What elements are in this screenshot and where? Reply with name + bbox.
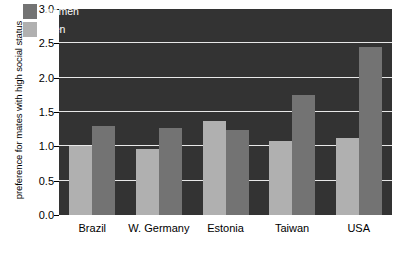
bar xyxy=(69,146,92,215)
y-tick-label: 0.0 xyxy=(20,210,54,220)
legend-item: women xyxy=(23,3,143,20)
bar xyxy=(359,47,382,215)
y-tick-label: 0.5 xyxy=(20,176,54,186)
gridline xyxy=(59,111,392,112)
bar xyxy=(336,138,359,215)
y-tick-label: 2.5 xyxy=(20,38,54,48)
bar xyxy=(269,141,292,215)
plot-area xyxy=(59,9,392,215)
chart-legend: womenmen xyxy=(23,3,143,39)
y-tick-label: 1.5 xyxy=(20,107,54,117)
y-tick-label: 1.0 xyxy=(20,141,54,151)
bar xyxy=(92,126,115,215)
x-axis-tick-labels: BrazilW. GermanyEstoniaTaiwanUSA xyxy=(59,222,392,238)
bar xyxy=(159,128,182,215)
bar xyxy=(292,95,315,215)
legend-swatch xyxy=(23,4,37,19)
y-tick-label: 2.0 xyxy=(20,73,54,83)
bar xyxy=(226,130,249,215)
gridline xyxy=(59,42,392,43)
x-tick-label: Brazil xyxy=(59,222,126,235)
legend-swatch xyxy=(23,22,37,37)
y-tick-mark xyxy=(54,215,59,216)
gridline xyxy=(59,77,392,78)
legend-item: men xyxy=(23,21,143,38)
bar-chart-figure: preference for mates with high social st… xyxy=(0,0,404,259)
legend-label: women xyxy=(45,3,79,20)
legend-label: men xyxy=(45,21,65,38)
bar xyxy=(203,121,226,215)
x-tick-label: USA xyxy=(325,222,392,235)
x-tick-label: Estonia xyxy=(192,222,259,235)
x-tick-label: W. Germany xyxy=(126,222,193,235)
x-tick-label: Taiwan xyxy=(259,222,326,235)
bar xyxy=(136,149,159,215)
